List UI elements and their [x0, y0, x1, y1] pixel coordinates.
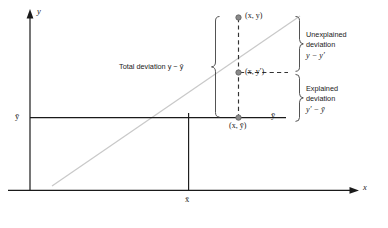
regression-deviation-diagram: y x ȳ x̄ ȳ (x, y) (x, y′) (x, ȳ) Tota… [0, 0, 388, 228]
regression-line [52, 16, 300, 186]
unexplained-deviation-formula: y − y′ [306, 50, 347, 61]
y-mean-line-end-label: ȳ [271, 110, 275, 120]
explained-deviation-line1: Explained [306, 84, 338, 94]
explained-deviation-brace [296, 74, 304, 121]
point-observed [236, 15, 241, 20]
point-observed-label: (x, y) [245, 11, 262, 20]
total-deviation-text: Total deviation y − ȳ [119, 62, 183, 71]
unexplained-deviation-brace [296, 17, 304, 72]
unexplained-deviation-line2: deviation [306, 40, 347, 50]
point-mean [236, 115, 241, 120]
x-axis [8, 187, 359, 194]
explained-deviation-annotation: Explained deviation y′ − ȳ [306, 84, 338, 115]
x-axis-label: x [363, 182, 367, 192]
point-mean-label: (x, ȳ) [229, 121, 246, 130]
unexplained-deviation-line1: Unexplained [306, 30, 347, 40]
y-mean-tick-label: ȳ [15, 111, 19, 121]
point-predicted-label: (x, y′) [245, 67, 264, 76]
total-deviation-annotation: Total deviation y − ȳ [119, 62, 183, 72]
point-predicted [236, 70, 241, 75]
total-deviation-brace [212, 17, 220, 118]
x-mean-tick-label: x̄ [185, 194, 189, 204]
y-axis [27, 9, 34, 191]
explained-deviation-formula: y′ − ȳ [306, 104, 338, 115]
y-axis-label: y [37, 6, 41, 16]
explained-deviation-line2: deviation [306, 94, 338, 104]
unexplained-deviation-annotation: Unexplained deviation y − y′ [306, 30, 347, 61]
